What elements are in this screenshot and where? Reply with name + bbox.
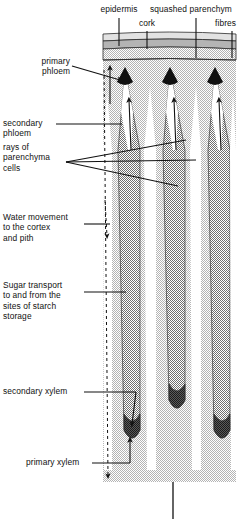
label-cork: cork — [120, 18, 174, 28]
label-secondary-xylem: secondary xylem — [3, 386, 87, 396]
label-secondary-phloem: secondary phloem — [3, 118, 73, 139]
tissue-bands — [103, 32, 236, 60]
label-water-movement: Water movement to the cortex and pith — [3, 212, 87, 243]
label-epidermis: epidermis — [82, 4, 156, 14]
label-squashed-parenchyma: squashed parenchym — [150, 4, 249, 14]
label-fibres: fibres — [215, 18, 249, 28]
label-primary-phloem: primary phloem — [0, 56, 70, 77]
label-primary-xylem: primary xylem — [26, 457, 96, 467]
label-rays-of-parenchyma-cells: rays of parenchyma cells — [3, 142, 79, 173]
stem-diagram — [0, 0, 249, 521]
diagram-stage: epidermis cork squashed parenchym fibres… — [0, 0, 249, 521]
label-sugar-transport: Sugar transport to and from the sites of… — [3, 280, 89, 322]
